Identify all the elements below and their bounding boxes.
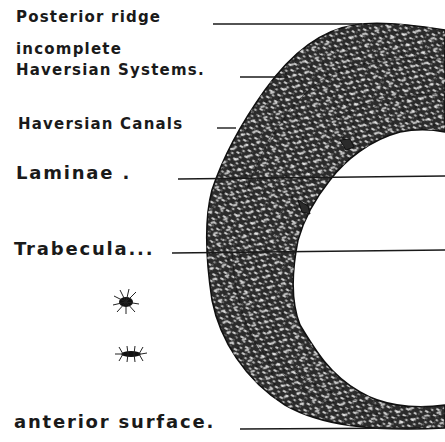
label-haversian-canals: Haversian Canals [18,117,183,132]
label-trabecula: Trabecula... [14,240,154,258]
label-incomplete: incomplete [16,42,122,57]
label-posterior-ridge: Posterior ridge [16,10,161,25]
label-laminae: Laminae . [16,164,131,182]
bone-cell-stellate [113,289,139,314]
bone-section-diagram: Posterior ridge incomplete Haversian Sys… [0,0,445,442]
label-anterior-surface: anterior surface. [14,413,215,431]
label-haversian-systems: Haversian Systems. [16,63,205,78]
bone-cell-elongated [115,346,147,362]
